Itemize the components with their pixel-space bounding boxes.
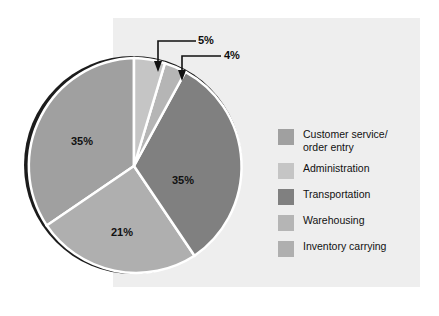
legend-swatch-icon bbox=[278, 129, 294, 145]
legend-item-label: Administration bbox=[303, 162, 370, 175]
legend-item-customer-service[interactable]: Customer service/ order entry bbox=[278, 128, 428, 153]
legend-item-label: Transportation bbox=[303, 188, 370, 201]
callout-label-warehousing: 4% bbox=[224, 49, 240, 61]
legend-item-label: Warehousing bbox=[303, 214, 364, 227]
legend-item-label: Customer service/ order entry bbox=[303, 128, 388, 153]
chart-legend: Customer service/ order entry Administra… bbox=[278, 128, 428, 266]
legend-item-warehousing[interactable]: Warehousing bbox=[278, 214, 428, 231]
legend-item-transportation[interactable]: Transportation bbox=[278, 188, 428, 205]
legend-swatch-icon bbox=[278, 215, 294, 231]
legend-item-label: Inventory carrying bbox=[303, 240, 386, 253]
legend-item-inventory-carrying[interactable]: Inventory carrying bbox=[278, 240, 428, 257]
legend-item-administration[interactable]: Administration bbox=[278, 162, 428, 179]
callout-label-administration: 5% bbox=[198, 34, 214, 46]
callout-line-administration bbox=[158, 41, 196, 63]
legend-swatch-icon bbox=[278, 241, 294, 257]
callout-arrowhead-administration bbox=[154, 61, 162, 72]
callout-line-warehousing bbox=[182, 56, 221, 71]
legend-swatch-icon bbox=[278, 189, 294, 205]
pie-chart-figure: 35% 35% 21% 5% 4% Customer service/ orde… bbox=[0, 0, 439, 316]
callout-arrowhead-warehousing bbox=[178, 70, 186, 81]
legend-swatch-icon bbox=[278, 163, 294, 179]
